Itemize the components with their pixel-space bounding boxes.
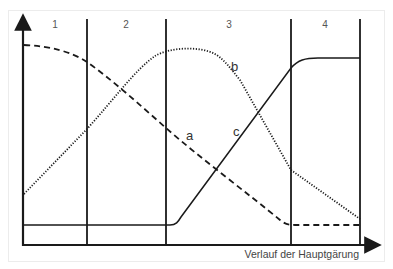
phase-label-1: 1 [52, 19, 58, 30]
x-axis-label: Verlauf der Hauptgärung [245, 248, 360, 260]
curve-label-b: b [231, 59, 238, 74]
phase-label-4: 4 [322, 19, 328, 30]
curve-label-c: c [233, 124, 240, 139]
curve-label-a: a [186, 128, 194, 143]
phase-label-2: 2 [123, 19, 129, 30]
fermentation-diagram: 1 2 3 4 a b c Verlauf der Hauptgärung [0, 0, 393, 269]
phase-label-3: 3 [226, 19, 232, 30]
